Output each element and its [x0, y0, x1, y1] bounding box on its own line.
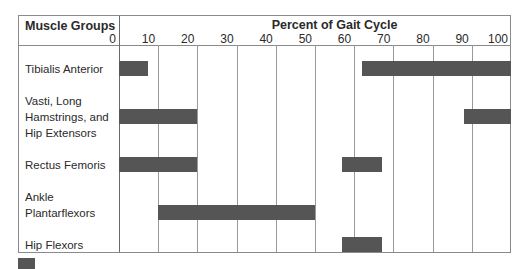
- gridline: [433, 45, 434, 252]
- activity-bar: [119, 157, 197, 172]
- activity-bar: [119, 109, 197, 124]
- row-label-ankle-plantarflexors: Ankle Plantarflexors: [25, 189, 95, 221]
- activity-bar: [342, 237, 381, 252]
- x-tick-label: 40: [259, 32, 275, 46]
- x-tick-label: 80: [416, 32, 432, 46]
- gridline: [276, 45, 277, 252]
- x-tick-label: 20: [181, 32, 197, 46]
- row-label-vasti-hamstrings-hip-extensors: Vasti, Long Hamstrings, and Hip Extensor…: [25, 93, 109, 141]
- row-header: Muscle Groups: [25, 19, 115, 33]
- activity-bar: [158, 205, 315, 220]
- x-tick-label: 90: [455, 32, 471, 46]
- activity-bar: [119, 61, 148, 76]
- gridline: [197, 45, 198, 252]
- gridline: [237, 45, 238, 252]
- row-label-hip-flexors: Hip Flexors: [25, 237, 83, 253]
- activity-bar: [464, 109, 511, 124]
- activity-bar: [362, 61, 511, 76]
- x-tick-label: 60: [338, 32, 354, 46]
- x-tick-label: 30: [220, 32, 236, 46]
- activity-bar: [342, 157, 381, 172]
- x-tick-label: 10: [142, 32, 158, 46]
- x-tick-label: 100: [488, 32, 511, 46]
- axis-title: Percent of Gait Cycle: [119, 18, 510, 32]
- row-label-tibialis-anterior: Tibialis Anterior: [25, 61, 103, 77]
- x-tick-label: 50: [299, 32, 315, 46]
- row-label-rectus-femoris: Rectus Femoris: [25, 157, 106, 173]
- gridline: [354, 45, 355, 252]
- label-column-divider: [119, 16, 120, 252]
- gridline: [158, 45, 159, 252]
- gridline: [393, 45, 394, 252]
- gridline: [472, 45, 473, 252]
- x-tick-label: 70: [377, 32, 393, 46]
- x-tick-label: 0: [109, 32, 119, 46]
- gridline: [315, 45, 316, 252]
- legend-swatch: [18, 258, 35, 269]
- gait-cycle-chart: Muscle Groups Percent of Gait Cycle 0102…: [18, 15, 511, 253]
